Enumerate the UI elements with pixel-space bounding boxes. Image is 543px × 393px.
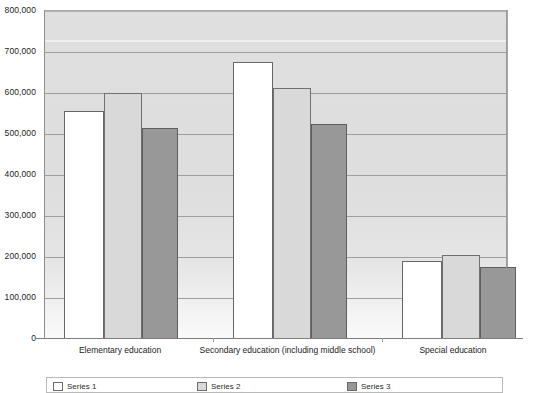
y-axis-tick-label: 300,000	[5, 211, 36, 220]
gridline	[45, 52, 507, 53]
y-axis-tick-label: 200,000	[5, 252, 36, 261]
bar-3-series-3[interactable]	[480, 267, 516, 339]
x-axis-left-cap	[36, 338, 44, 339]
y-axis-tick-labels: 800,000700,000600,000500,000400,000300,0…	[0, 0, 40, 345]
gridline	[45, 11, 507, 12]
bar-2-series-2[interactable]	[273, 88, 311, 339]
scan-artifact-band	[45, 40, 507, 42]
x-axis-tick	[213, 338, 214, 342]
category-label-1: Elementary education	[40, 345, 200, 356]
y-axis-tick-label: 600,000	[5, 88, 36, 97]
legend-label: Series 1	[67, 383, 96, 391]
plot-area	[44, 10, 508, 339]
y-axis-tick-label: 100,000	[5, 293, 36, 302]
bar-2-series-3[interactable]	[311, 124, 347, 339]
legend-item-3[interactable]: Series 3	[347, 382, 390, 391]
y-axis-tick-label: 400,000	[5, 170, 36, 179]
legend-swatch-icon	[347, 382, 357, 391]
category-label-3: Special education	[378, 345, 528, 356]
legend-label: Series 2	[211, 383, 240, 391]
y-axis-tick-label: 700,000	[5, 47, 36, 56]
x-axis-line	[44, 338, 523, 339]
x-axis-tick	[382, 338, 383, 342]
category-label-2: Secondary education (including middle sc…	[195, 345, 380, 356]
bar-1-series-2[interactable]	[104, 93, 142, 339]
y-axis-tick-label: 500,000	[5, 129, 36, 138]
bar-1-series-1[interactable]	[64, 111, 104, 339]
plot-right-border	[506, 10, 507, 339]
bar-3-series-1[interactable]	[402, 261, 442, 339]
bar-3-series-2[interactable]	[442, 255, 480, 339]
legend-label: Series 3	[361, 383, 390, 391]
chart-legend: Series 1Series 2Series 3	[46, 377, 503, 393]
legend-swatch-icon	[53, 382, 63, 391]
legend-swatch-icon	[197, 382, 207, 391]
legend-item-2[interactable]: Series 2	[197, 382, 240, 391]
y-axis-tick-label: 800,000	[5, 6, 36, 15]
bar-2-series-1[interactable]	[233, 62, 273, 339]
bar-1-series-3[interactable]	[142, 128, 178, 339]
legend-item-1[interactable]: Series 1	[53, 382, 96, 391]
